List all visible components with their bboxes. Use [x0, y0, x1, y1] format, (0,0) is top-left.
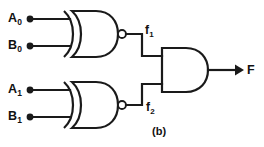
gate-and-body	[162, 48, 208, 92]
gate-xnor-bottom	[64, 82, 126, 128]
gate-xnor-bottom-body	[72, 82, 118, 128]
input-terminal-dot-B1	[27, 114, 34, 121]
input-label-B1: B1	[8, 110, 22, 123]
figure-canvas: A0 B0 A1 B1 f1 f2 F (b)	[0, 0, 264, 147]
input-terminal-dot-A1	[27, 87, 34, 94]
output-arrow-icon	[235, 65, 244, 76]
signal-label-f2: f2	[146, 101, 154, 113]
circuit-diagram	[0, 0, 264, 147]
wire-f1-to-and-gate	[126, 34, 162, 56]
wire-f2-to-and-gate	[126, 84, 162, 105]
gate-xnor-top	[64, 11, 126, 57]
input-terminal-dot-B0	[27, 43, 34, 50]
signal-label-f1: f1	[145, 24, 153, 36]
gate-xnor-top-inversion-bubble	[118, 30, 126, 38]
input-label-B0: B0	[8, 39, 22, 52]
input-terminal-dot-A0	[27, 16, 34, 23]
input-label-A0: A0	[8, 12, 22, 25]
output-label-F: F	[247, 64, 255, 77]
gate-xnor-bottom-inversion-bubble	[118, 101, 126, 109]
gate-and	[162, 48, 208, 92]
gate-xnor-top-body	[72, 11, 118, 57]
input-label-A1: A1	[8, 83, 22, 96]
figure-caption: (b)	[152, 126, 166, 137]
